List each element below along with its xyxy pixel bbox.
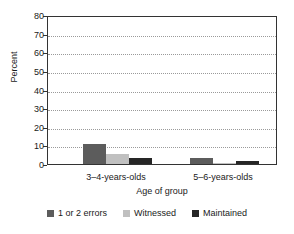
y-axis-tickmark (43, 165, 47, 166)
bar (106, 154, 129, 164)
y-axis-tick-labels: 01020304050607080 (18, 0, 44, 234)
y-axis-tick-label: 40 (18, 86, 44, 95)
bar (83, 144, 106, 164)
square-swatch-icon (47, 210, 54, 217)
y-axis-tick-label: 20 (18, 123, 44, 132)
legend-item: 1 or 2 errors (47, 208, 107, 218)
y-axis-tickmark (43, 16, 47, 17)
y-axis-tick-label: 0 (18, 161, 44, 170)
bar (190, 158, 213, 164)
legend-label: Witnessed (134, 208, 176, 218)
y-axis-tick-label: 50 (18, 67, 44, 76)
x-axis-category-label: 3–4-years-olds (56, 172, 176, 182)
y-axis-tickmark (43, 35, 47, 36)
legend-label: 1 or 2 errors (58, 208, 107, 218)
bar (129, 158, 152, 164)
y-axis-tickmark (43, 146, 47, 147)
x-axis-title: Age of group (47, 186, 277, 196)
square-swatch-icon (192, 210, 199, 217)
legend-item: Maintained (192, 208, 247, 218)
y-axis-tickmark (43, 128, 47, 129)
bars-layer (48, 17, 276, 164)
y-axis-tick-label: 30 (18, 105, 44, 114)
y-axis-tick-label: 70 (18, 30, 44, 39)
legend-item: Witnessed (123, 208, 176, 218)
y-axis-tickmark (43, 91, 47, 92)
bar (213, 163, 236, 164)
y-axis-tick-label: 60 (18, 49, 44, 58)
y-axis-tickmark (43, 72, 47, 73)
y-axis-tick-label: 80 (18, 12, 44, 21)
chart-legend: 1 or 2 errorsWitnessedMaintained (0, 208, 294, 218)
legend-label: Maintained (203, 208, 247, 218)
y-axis-tick-label: 10 (18, 142, 44, 151)
plot-area (47, 16, 277, 165)
y-axis-tickmark (43, 109, 47, 110)
bar-chart: Percent 01020304050607080 3–4-years-olds… (0, 0, 294, 234)
bar (236, 161, 259, 164)
square-swatch-icon (123, 210, 130, 217)
x-axis-category-label: 5–6-years-olds (163, 172, 283, 182)
y-axis-tickmark (43, 53, 47, 54)
